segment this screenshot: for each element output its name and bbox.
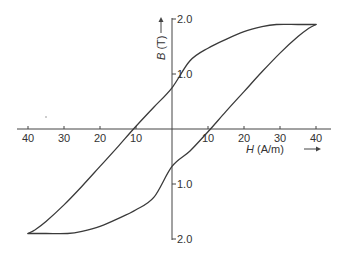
y-axis-label: B (T) xyxy=(155,36,167,60)
y-axis-variable: B xyxy=(155,53,167,60)
x-tick-label: 20 xyxy=(94,132,106,144)
x-axis-variable: H xyxy=(246,143,254,155)
x-axis-label: H (A/m) xyxy=(246,143,284,155)
x-tick-label: 40 xyxy=(22,132,34,144)
scan-speck xyxy=(45,116,46,117)
y-axis-unit: (T) xyxy=(155,36,167,53)
x-axis-arrow-icon xyxy=(304,147,321,152)
x-tick-label: 40 xyxy=(310,132,322,144)
y-tick-label: 1.0 xyxy=(177,178,192,190)
y-tick-label: 1.0 xyxy=(177,68,192,80)
axes xyxy=(17,18,331,240)
x-axis-unit: (A/m) xyxy=(254,143,284,155)
y-axis-arrow-icon xyxy=(159,17,164,33)
y-tick-label: 2.0 xyxy=(177,13,192,25)
hysteresis-chart: 40302010102030402.01.01.02.0 H (A/m) B (… xyxy=(0,0,340,255)
y-tick-label: 2.0 xyxy=(177,233,192,245)
x-tick-label: 30 xyxy=(58,132,70,144)
x-tick-label: 10 xyxy=(202,132,214,144)
x-tick-label: 10 xyxy=(130,132,142,144)
